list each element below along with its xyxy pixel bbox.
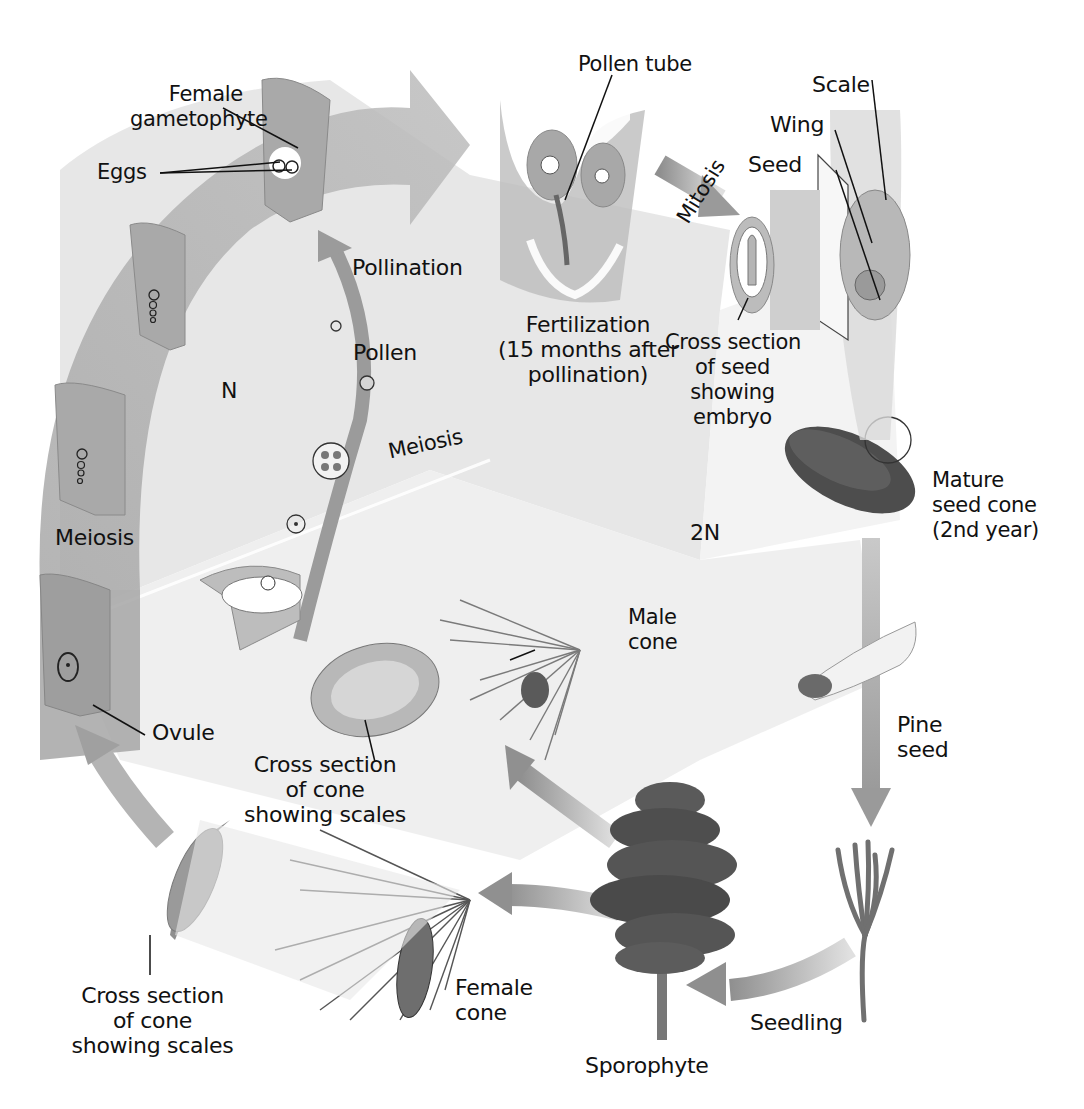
label-female-gametophyte: Female gametophyte <box>130 82 243 132</box>
label-female-cone: Female cone <box>455 975 533 1025</box>
label-diploid-2n: 2N <box>690 520 720 545</box>
label-cross-section-cone-upper: Cross section of cone showing scales <box>240 752 410 827</box>
ovule-stage-2 <box>55 383 125 515</box>
label-pollination: Pollination <box>352 255 463 280</box>
seedling <box>838 842 892 1020</box>
pine-life-cycle-diagram: Female gametophyte Eggs Pollen tube Scal… <box>0 0 1084 1109</box>
label-ovule: Ovule <box>152 720 214 745</box>
label-mature-seed-cone: Mature seed cone (2nd year) <box>932 468 1039 543</box>
ovule-stage-1 <box>40 574 110 716</box>
label-meiosis-ovule: Meiosis <box>55 525 134 550</box>
label-fertilization: Fertilization (15 months after pollinati… <box>498 312 678 387</box>
label-pine-seed: Pine seed <box>897 712 948 762</box>
label-cross-section-cone-lower: Cross section of cone showing scales <box>70 983 235 1058</box>
label-haploid-n: N <box>221 378 237 403</box>
label-seed: Seed <box>748 152 802 177</box>
seed-cross-section <box>730 190 820 330</box>
arrow-seedling-to-sporophyte <box>686 947 850 1006</box>
ovule-stage-4 <box>262 78 330 222</box>
label-sporophyte: Sporophyte <box>585 1053 709 1078</box>
label-wing: Wing <box>770 112 824 137</box>
sporophyte-tree <box>590 782 737 1040</box>
fertilization-illustration <box>500 75 645 303</box>
diagram-artwork <box>0 0 1084 1109</box>
label-pollen: Pollen <box>353 340 417 365</box>
label-cross-section-seed: Cross section of seed showing embryo <box>665 330 800 430</box>
label-pollen-tube: Pollen tube <box>578 52 692 77</box>
label-male-cone: Male cone <box>628 605 677 655</box>
label-seedling: Seedling <box>750 1010 843 1035</box>
label-eggs: Eggs <box>97 160 147 185</box>
label-scale: Scale <box>812 72 870 97</box>
